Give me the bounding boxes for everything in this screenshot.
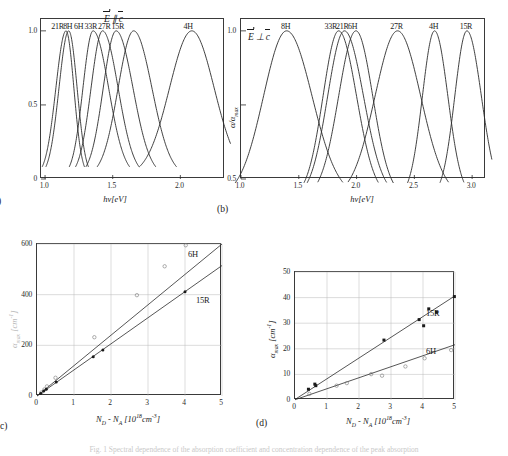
y-tick: 0.5 xyxy=(215,174,236,183)
curve-label-27r: 27R xyxy=(390,22,402,31)
figure-caption: Fig. 1 Spectral dependence of the absorp… xyxy=(0,445,508,454)
panel-d-x-axis-title: ND - NA [1018cm-3] xyxy=(346,415,410,428)
y-tick: 10 xyxy=(270,369,290,378)
curve-label-33r: 33R xyxy=(85,22,97,31)
curve-label-6h: 6H xyxy=(348,22,357,31)
series-label-6h: 6H xyxy=(188,249,198,259)
panel-b-curves xyxy=(241,19,484,177)
y-tick: 40 xyxy=(270,292,290,301)
x-tick: 2 xyxy=(356,402,360,411)
curve-label-15r: 15R xyxy=(112,22,124,31)
y-tick: 0.5 xyxy=(18,99,37,108)
panel-c-data xyxy=(37,244,220,394)
curve-label-8h: 8H xyxy=(281,22,290,31)
panel-c-plot-area xyxy=(36,243,221,395)
x-tick: 3.0 xyxy=(467,181,476,190)
series-label-15r: 15R xyxy=(196,295,209,305)
y-tick: 600 xyxy=(6,239,32,248)
panel-c: 012345 0200400600 6H15R αmax [cm-1] ND -… xyxy=(0,228,254,456)
curve-label-15r: 15R xyxy=(460,22,472,31)
panel-a-x-axis-title: hν[eV] xyxy=(103,194,127,204)
x-tick: 2 xyxy=(108,398,112,407)
x-tick: 2.0 xyxy=(175,181,184,190)
x-tick: 0 xyxy=(292,402,296,411)
series-label-15r: 15R xyxy=(426,308,439,318)
x-tick: 2.0 xyxy=(351,181,360,190)
panel-c-tag: c) xyxy=(0,421,7,431)
x-tick: 2.5 xyxy=(409,181,418,190)
y-tick: 400 xyxy=(6,289,32,298)
figure-container: E ∥ c 21R8H6H33R27R15R4H 1.01.52.0 00.51… xyxy=(0,0,508,456)
panel-b-y-axis-title: α/αmax xyxy=(227,107,239,128)
curve-label-27r: 27R xyxy=(98,22,110,31)
x-tick: 1 xyxy=(71,398,75,407)
y-tick: 0 xyxy=(18,174,37,183)
panel-a-plot-area xyxy=(40,18,224,178)
x-tick: 1.0 xyxy=(236,181,245,190)
y-tick: 0 xyxy=(270,395,290,404)
y-tick: 50 xyxy=(270,267,290,276)
panel-b: E ⊥ c 8H33R21R6H27R4H15R 1.01.52.02.53.0… xyxy=(215,0,508,228)
curve-label-4h: 4H xyxy=(429,22,438,31)
curve-label-4h: 4H xyxy=(184,22,193,31)
x-tick: 0 xyxy=(34,398,38,407)
curve-label-21r: 21R xyxy=(51,22,63,31)
panel-b-x-axis-title: hν[eV] xyxy=(350,194,374,204)
x-tick: 4 xyxy=(182,398,186,407)
x-tick: 1.0 xyxy=(40,181,49,190)
panel-a-curves xyxy=(41,19,223,177)
panel-b-plot-area xyxy=(240,18,485,178)
curve-label-8h: 8H xyxy=(63,22,72,31)
x-tick: 5 xyxy=(452,402,456,411)
x-tick: 1.5 xyxy=(107,181,116,190)
panel-d-data xyxy=(295,272,453,398)
panel-b-polarization-label: E ⊥ c xyxy=(248,31,270,42)
panel-d: 012345 01020304050 15R6H αmax [cm-1] ND … xyxy=(254,228,508,456)
panel-d-y-axis-title: αmax [cm-1] xyxy=(266,320,279,358)
panel-c-x-axis-title: ND - NA [1018cm-3] xyxy=(96,413,160,426)
panel-d-plot-area xyxy=(294,271,454,399)
panel-c-y-axis-title: αmax [cm-1] xyxy=(8,310,21,348)
x-tick: 3 xyxy=(145,398,149,407)
series-label-6h: 6H xyxy=(426,346,436,356)
y-tick: 1.0 xyxy=(215,25,236,34)
curve-label-21r: 21R xyxy=(336,22,348,31)
curve-label-6h: 6H xyxy=(74,22,83,31)
y-tick: 1.0 xyxy=(18,25,37,34)
y-tick: 0 xyxy=(6,391,32,400)
panel-b-tag: (b) xyxy=(217,204,228,214)
x-tick: 1 xyxy=(324,402,328,411)
x-tick: 5 xyxy=(219,398,223,407)
x-tick: 4 xyxy=(420,402,424,411)
panel-d-tag: (d) xyxy=(256,418,267,428)
x-tick: 3 xyxy=(388,402,392,411)
x-tick: 1.5 xyxy=(293,181,302,190)
panel-a-tag: ) xyxy=(0,196,1,206)
